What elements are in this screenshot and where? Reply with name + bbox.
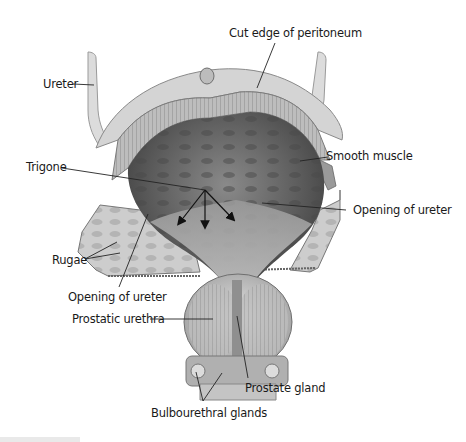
label-rugae: Rugae: [52, 253, 87, 267]
bottom-edge-bar: [0, 437, 80, 442]
urachus-stump: [200, 68, 214, 84]
label-bulbourethral-glands: Bulbourethral glands: [151, 406, 267, 420]
label-smooth-muscle: Smooth muscle: [326, 149, 413, 163]
label-prostate-gland: Prostate gland: [245, 381, 325, 395]
label-trigone: Trigone: [26, 160, 67, 174]
label-opening-of-ureter-left: Opening of ureter: [68, 290, 167, 304]
label-opening-of-ureter-right: Opening of ureter: [353, 203, 452, 217]
label-ureter: Ureter: [43, 77, 78, 91]
label-cut-edge-of-peritoneum: Cut edge of peritoneum: [229, 26, 362, 40]
bladder-anatomy-illustration: [0, 0, 466, 442]
label-prostatic-urethra: Prostatic urethra: [72, 312, 165, 326]
